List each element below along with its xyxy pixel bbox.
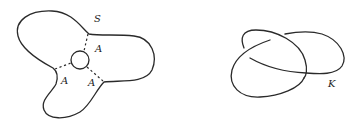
central-disk [71,51,89,69]
arc-label-2: A [60,75,68,86]
arc-a1 [84,34,88,51]
figure-canvas: S A A A K [0,0,359,126]
arc-label-1: A [94,43,102,54]
surface-label: S [94,13,101,24]
arc-a2 [55,63,71,69]
knot-strand-3 [250,32,344,74]
arc-label-3: A [87,77,95,88]
surface-diagram: S A A A [17,11,154,118]
knot-strand-2 [231,40,304,97]
surface-boundary [17,11,154,118]
knot-diagram: K [231,30,344,97]
knot-strand-1 [242,30,306,78]
knot-label: K [327,78,336,89]
